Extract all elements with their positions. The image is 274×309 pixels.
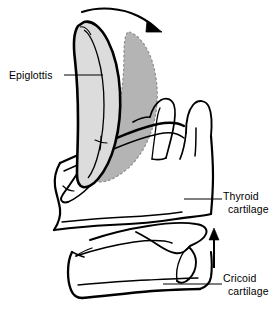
label-cricoid-line2: cartilage	[223, 285, 269, 298]
label-epiglottis: Epiglottis	[9, 69, 53, 82]
label-epiglottis-text: Epiglottis	[9, 69, 53, 81]
anatomical-figure: Epiglottis Thyroid cartilage Cricoid car…	[0, 0, 274, 309]
label-thyroid-line2: cartilage	[223, 203, 269, 216]
cricoid-cartilage-outline	[68, 223, 212, 298]
label-thyroid-cartilage: Thyroid cartilage	[223, 190, 269, 215]
label-cricoid-line1: Cricoid	[223, 272, 256, 284]
label-thyroid-line1: Thyroid	[223, 190, 259, 202]
label-cricoid-cartilage: Cricoid cartilage	[223, 272, 269, 297]
larynx-diagram-canvas	[0, 0, 274, 309]
larynx-elevation-arrow	[209, 228, 219, 268]
